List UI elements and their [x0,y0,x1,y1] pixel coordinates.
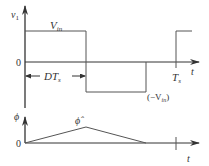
waveform-diagram: v1 Vin 0 DTs Ts t (−Vin) ϕ ϕ̂ 0 t [0,0,209,166]
phi-waveform [25,127,146,143]
bottom-t-label: t [187,153,190,164]
bottom-plot: ϕ ϕ̂ 0 t [14,111,199,164]
top-plot: v1 Vin 0 DTs Ts t (−Vin) [11,6,199,108]
vin-label: Vin [50,19,63,33]
v1-axis-label: v1 [11,9,19,22]
phi-peak-label: ϕ̂ [75,115,84,126]
duty-label: DTs [43,70,61,84]
phi-axis-label: ϕ [14,111,19,122]
period-label: Ts [172,71,181,85]
top-zero-label: 0 [16,57,21,68]
bottom-zero-label: 0 [16,138,21,149]
neg-vin-label: (−Vin) [147,92,169,103]
v1-waveform-next-period [176,31,192,62]
top-t-label: t [191,66,194,77]
